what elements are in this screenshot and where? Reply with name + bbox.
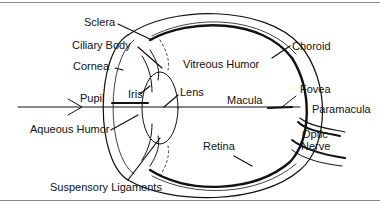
diagram-frame: Sclera Ciliary Body Cornea Pupil Iris Le… bbox=[0, 0, 380, 211]
lens-outline bbox=[142, 72, 178, 144]
label-aqueous-humor: Aqueous Humor bbox=[30, 123, 110, 135]
label-macula: Macula bbox=[227, 94, 263, 106]
label-vitreous-humor: Vitreous Humor bbox=[183, 58, 260, 70]
label-pupil: Pupil bbox=[80, 92, 104, 104]
eye-diagram: Sclera Ciliary Body Cornea Pupil Iris Le… bbox=[0, 0, 380, 211]
label-retina: Retina bbox=[203, 140, 236, 152]
label-choroid: Choroid bbox=[292, 40, 331, 52]
label-paramacula: Paramacula bbox=[312, 103, 372, 115]
label-cornea: Cornea bbox=[73, 60, 110, 72]
label-lens: Lens bbox=[180, 86, 204, 98]
iris-top bbox=[142, 56, 152, 92]
label-ciliary-body: Ciliary Body bbox=[72, 39, 131, 51]
label-suspensory-ligaments: Suspensory Ligaments bbox=[50, 181, 162, 193]
label-iris: Iris bbox=[128, 88, 143, 100]
label-optic: Optic bbox=[302, 128, 328, 140]
label-nerve: Nerve bbox=[301, 140, 330, 152]
label-fovea: Fovea bbox=[300, 83, 331, 95]
label-sclera: Sclera bbox=[84, 16, 116, 28]
ciliary-body bbox=[160, 40, 169, 70]
